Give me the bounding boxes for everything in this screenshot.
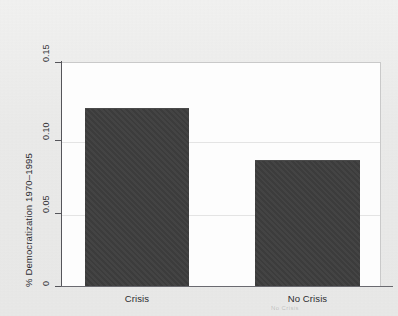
scan-artifact-text: No Crisis (271, 305, 299, 311)
y-axis-line (61, 61, 62, 287)
bar-no-crisis (255, 160, 360, 287)
y-tick-label-0: 0 (41, 281, 51, 286)
bar-crisis (85, 108, 189, 287)
y-tick-mark-0.05 (55, 213, 61, 214)
y-tick-label-0.05: 0.05 (41, 195, 51, 213)
y-tick-mark-0 (55, 286, 61, 287)
y-tick-label-0.15: 0.15 (41, 44, 51, 62)
x-axis-line (61, 286, 393, 287)
graph-region: 0.15 0.10 0.05 0 % Democratization 1970–… (9, 9, 389, 305)
chart-figure: 0.15 0.10 0.05 0 % Democratization 1970–… (0, 0, 398, 316)
y-tick-label-0.10: 0.10 (41, 122, 51, 140)
x-tick-label-crisis: Crisis (85, 293, 189, 304)
y-tick-mark-0.10 (55, 140, 61, 141)
x-tick-label-no-crisis: No Crisis (255, 293, 360, 304)
y-tick-mark-0.15 (55, 62, 61, 63)
y-axis-title: % Democratization 1970–1995 (23, 153, 34, 287)
